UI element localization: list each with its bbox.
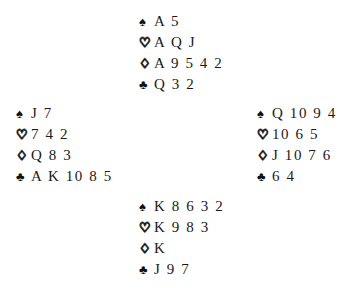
- hand-east: ♠ Q 10 9 4 ♡ 10 6 5 ♢ J 10 7 6 ♣ 6 4: [257, 103, 337, 187]
- east-heart-cards: 10 6 5: [270, 124, 319, 145]
- north-diamond-cards: A 9 5 4 2: [152, 53, 223, 74]
- west-heart-cards: 7 4 2: [29, 124, 69, 145]
- heart-icon: ♡: [16, 124, 29, 145]
- east-diamond-line: ♢ J 10 7 6: [257, 145, 337, 166]
- club-icon: ♣: [139, 259, 152, 280]
- club-icon: ♣: [257, 166, 270, 187]
- east-spade-cards: Q 10 9 4: [270, 103, 337, 124]
- heart-icon: ♡: [139, 217, 152, 238]
- south-club-cards: J 9 7: [152, 259, 190, 280]
- north-spade-line: ♠ A 5: [139, 11, 223, 32]
- south-diamond-line: ♢ K: [139, 238, 224, 259]
- south-spade-cards: K 8 6 3 2: [152, 196, 224, 217]
- south-heart-line: ♡ K 9 8 3: [139, 217, 224, 238]
- spade-icon: ♠: [16, 103, 29, 124]
- heart-icon: ♡: [257, 124, 270, 145]
- hand-west: ♠ J 7 ♡ 7 4 2 ♢ Q 8 3 ♣ A K 10 8 5: [16, 103, 113, 187]
- west-diamond-line: ♢ Q 8 3: [16, 145, 113, 166]
- north-club-line: ♣ Q 3 2: [139, 74, 223, 95]
- spade-icon: ♠: [257, 103, 270, 124]
- bridge-deal-diagram: ♠ A 5 ♡ A Q J ♢ A 9 5 4 2 ♣ Q 3 2 ♠ J 7 …: [0, 0, 358, 306]
- east-club-cards: 6 4: [270, 166, 296, 187]
- diamond-icon: ♢: [257, 145, 270, 166]
- heart-icon: ♡: [139, 32, 152, 53]
- east-club-line: ♣ 6 4: [257, 166, 337, 187]
- north-spade-cards: A 5: [152, 11, 180, 32]
- west-diamond-cards: Q 8 3: [29, 145, 72, 166]
- east-heart-line: ♡ 10 6 5: [257, 124, 337, 145]
- club-icon: ♣: [16, 166, 29, 187]
- west-heart-line: ♡ 7 4 2: [16, 124, 113, 145]
- club-icon: ♣: [139, 74, 152, 95]
- diamond-icon: ♢: [16, 145, 29, 166]
- hand-north: ♠ A 5 ♡ A Q J ♢ A 9 5 4 2 ♣ Q 3 2: [139, 11, 223, 95]
- diamond-icon: ♢: [139, 53, 152, 74]
- west-club-cards: A K 10 8 5: [29, 166, 113, 187]
- north-heart-line: ♡ A Q J: [139, 32, 223, 53]
- spade-icon: ♠: [139, 11, 152, 32]
- hand-south: ♠ K 8 6 3 2 ♡ K 9 8 3 ♢ K ♣ J 9 7: [139, 196, 224, 280]
- west-spade-line: ♠ J 7: [16, 103, 113, 124]
- south-club-line: ♣ J 9 7: [139, 259, 224, 280]
- north-diamond-line: ♢ A 9 5 4 2: [139, 53, 223, 74]
- east-spade-line: ♠ Q 10 9 4: [257, 103, 337, 124]
- south-spade-line: ♠ K 8 6 3 2: [139, 196, 224, 217]
- west-spade-cards: J 7: [29, 103, 53, 124]
- spade-icon: ♠: [139, 196, 152, 217]
- south-diamond-cards: K: [152, 238, 166, 259]
- south-heart-cards: K 9 8 3: [152, 217, 210, 238]
- west-club-line: ♣ A K 10 8 5: [16, 166, 113, 187]
- diamond-icon: ♢: [139, 238, 152, 259]
- north-club-cards: Q 3 2: [152, 74, 195, 95]
- east-diamond-cards: J 10 7 6: [270, 145, 332, 166]
- north-heart-cards: A Q J: [152, 32, 196, 53]
